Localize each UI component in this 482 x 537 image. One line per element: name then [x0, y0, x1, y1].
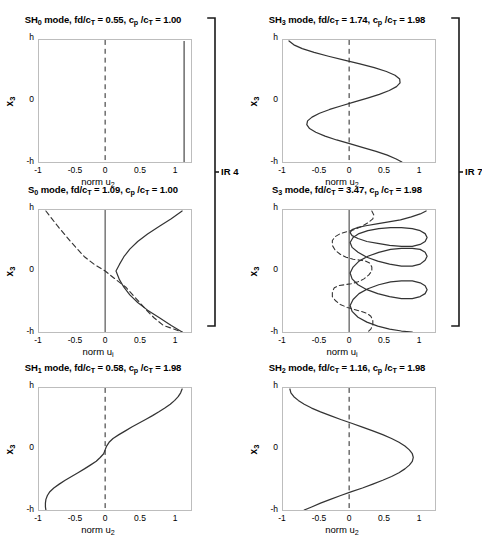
panel-sh3: SH3 mode, fd/cT = 1.74, cp /cT = 1.98 x3… [244, 14, 450, 174]
panel-s0-xtick-4: 1 [163, 335, 187, 345]
panel-s3-plot [282, 209, 436, 333]
panel-sh1: SH1 mode, fd/cT = 0.58, cp /cT = 1.98 x3… [0, 362, 206, 522]
panel-s3-ytick-mid: 0 [260, 264, 278, 274]
panel-sh2-ytick-top: h [260, 380, 278, 390]
panel-sh3-xtick-3: 0.5 [369, 165, 399, 175]
panel-sh2-xtick-3: 0.5 [369, 513, 399, 523]
panel-sh2-ylabel: x3 [248, 435, 259, 465]
panel-s3-ylabel: x3 [248, 257, 259, 287]
panel-sh0-xtick-0: -1 [26, 165, 50, 175]
panel-s3: S3 mode, fd/cT = 3.47, cp /cT = 1.98 x3 … [244, 184, 450, 344]
panel-sh2-xtick-0: -1 [270, 513, 294, 523]
group-bracket-ir4-shape [206, 16, 220, 328]
panel-sh1-plot [38, 387, 192, 511]
panel-s3-xtick-2: 0 [337, 335, 361, 345]
panel-s0: S0 mode, fd/cT = 1.09, cp /cT = 1.00 x3 … [0, 184, 206, 344]
panel-sh1-ytick-mid: 0 [16, 442, 34, 452]
panel-s3-svg [283, 210, 435, 332]
panel-sh0-xtick-2: 0 [93, 165, 117, 175]
panel-s3-xlabel: norm ui [244, 346, 450, 357]
panel-sh0-xtick-1: -0.5 [60, 165, 90, 175]
panel-s0-xtick-1: -0.5 [60, 335, 90, 345]
panel-sh1-xtick-1: -0.5 [60, 513, 90, 523]
panel-sh0-ylabel: x3 [4, 87, 15, 117]
panel-sh1-xtick-3: 0.5 [125, 513, 155, 523]
series-u2-curve [290, 389, 413, 510]
panel-sh3-xtick-0: -1 [270, 165, 294, 175]
panel-sh1-xtick-2: 0 [93, 513, 117, 523]
panel-s0-ytick-mid: 0 [16, 264, 34, 274]
panel-sh1-xtick-0: -1 [26, 513, 50, 523]
series-u1-curve-solid [350, 211, 427, 332]
panel-sh0-plot [38, 39, 192, 163]
panel-sh2-ytick-mid: 0 [260, 442, 278, 452]
panel-sh3-ytick-top: h [260, 32, 278, 42]
panel-s3-xtick-4: 1 [407, 335, 431, 345]
panel-sh3-title: SH3 mode, fd/cT = 1.74, cp /cT = 1.98 [244, 14, 450, 25]
panel-sh1-svg [39, 388, 191, 510]
series-u1-curve-solid [116, 211, 182, 332]
panel-sh1-ytick-top: h [16, 380, 34, 390]
panel-sh3-svg [283, 40, 435, 162]
panel-sh2-xtick-2: 0 [337, 513, 361, 523]
series-u3-curve-dashed [46, 211, 182, 332]
panel-sh0-svg [39, 40, 191, 162]
panel-s0-xlabel: norm ui [0, 346, 206, 357]
panel-sh1-ylabel: x3 [4, 435, 15, 465]
panel-s3-title: S3 mode, fd/cT = 3.47, cp /cT = 1.98 [244, 184, 450, 195]
panel-sh1-xlabel: norm u2 [0, 524, 206, 535]
panel-sh1-xtick-4: 1 [163, 513, 187, 523]
series-u2-curve [45, 389, 182, 510]
panel-sh0-title: SH0 mode, fd/cT = 0.55, cp /cT = 1.00 [0, 14, 206, 25]
panel-s0-plot [38, 209, 192, 333]
panel-sh3-ylabel: x3 [248, 87, 259, 117]
panel-sh3-plot [282, 39, 436, 163]
panel-s3-xtick-3: 0.5 [369, 335, 399, 345]
panel-sh3-xtick-4: 1 [407, 165, 431, 175]
panel-s0-xtick-2: 0 [93, 335, 117, 345]
panel-sh3-ytick-mid: 0 [260, 94, 278, 104]
group-bracket-ir4 [206, 16, 220, 328]
panel-sh3-xtick-2: 0 [337, 165, 361, 175]
panel-s0-ytick-top: h [16, 202, 34, 212]
panel-s0-xtick-3: 0.5 [125, 335, 155, 345]
panel-s0-svg [39, 210, 191, 332]
panel-s0-ylabel: x3 [4, 257, 15, 287]
panel-sh0-ytick-top: h [16, 32, 34, 42]
panel-sh0-ytick-mid: 0 [16, 94, 34, 104]
group-bracket-ir4-label: IR 4 [221, 166, 238, 177]
panel-sh2-plot [282, 387, 436, 511]
panel-sh2-xtick-1: -0.5 [304, 513, 334, 523]
panel-sh2-title: SH2 mode, fd/cT = 1.16, cp /cT = 1.98 [244, 362, 450, 373]
group-bracket-ir7 [450, 16, 464, 328]
group-bracket-ir7-label: IR 7 [465, 166, 482, 177]
panel-sh0-xtick-3: 0.5 [125, 165, 155, 175]
panel-sh2-xlabel: norm u2 [244, 524, 450, 535]
panel-sh2-xtick-4: 1 [407, 513, 431, 523]
panel-sh2: SH2 mode, fd/cT = 1.16, cp /cT = 1.98 x3… [244, 362, 450, 522]
panel-sh0-xtick-4: 1 [163, 165, 187, 175]
panel-s0-title: S0 mode, fd/cT = 1.09, cp /cT = 1.00 [0, 184, 206, 195]
panel-s3-xtick-0: -1 [270, 335, 294, 345]
series-u2-curve [289, 41, 402, 162]
panel-s3-xtick-1: -0.5 [304, 335, 334, 345]
group-bracket-ir7-shape [450, 16, 464, 328]
panel-sh0: SH0 mode, fd/cT = 0.55, cp /cT = 1.00 x3… [0, 14, 206, 174]
panel-sh3-xtick-1: -0.5 [304, 165, 334, 175]
panel-s3-ytick-top: h [260, 202, 278, 212]
panel-sh1-title: SH1 mode, fd/cT = 0.58, cp /cT = 1.98 [0, 362, 206, 373]
panel-sh2-svg [283, 388, 435, 510]
panel-s0-xtick-0: -1 [26, 335, 50, 345]
